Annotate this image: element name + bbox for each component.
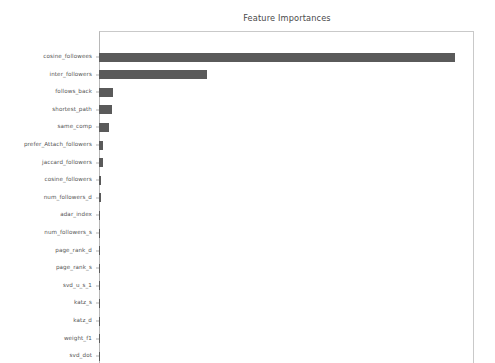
y-axis-tick-label: follows_back — [55, 89, 92, 95]
y-axis-tick-mark — [96, 162, 99, 163]
bar — [99, 193, 101, 202]
y-axis-tick-label: same_comp — [58, 125, 92, 131]
y-axis-tick-mark — [96, 303, 99, 304]
bar-series-layer — [99, 31, 474, 363]
bar — [99, 264, 100, 273]
y-axis-tick-mark — [96, 145, 99, 146]
bar — [99, 70, 207, 79]
y-axis-tick-mark — [96, 57, 99, 58]
y-axis-tick-label: page_rank_d — [55, 248, 92, 254]
y-axis-tick-mark — [96, 180, 99, 181]
y-axis-tick-label: jaccard_followers — [42, 160, 92, 166]
bar — [99, 229, 100, 238]
y-axis-tick-label: num_followers_s — [44, 230, 92, 236]
bar — [99, 141, 103, 150]
y-axis-tick-label: svd_dot — [70, 353, 92, 359]
y-axis-tick-label: num_followers_d — [44, 195, 92, 201]
y-axis-tick-mark — [96, 197, 99, 198]
bar — [99, 246, 100, 255]
bar — [99, 53, 455, 62]
matplotlib-figure: Feature Importances cosine_followeesinte… — [0, 0, 495, 363]
bar — [99, 88, 113, 97]
y-axis-tick-mark — [96, 233, 99, 234]
y-axis-tick-mark — [96, 127, 99, 128]
bar — [99, 105, 112, 114]
y-axis-tick-label: cosine_followers — [44, 177, 92, 183]
bar — [99, 158, 103, 167]
y-axis-tick-label: prefer_Attach_followers — [24, 142, 92, 148]
y-axis-tick-mark — [96, 321, 99, 322]
y-axis-tick-mark — [96, 285, 99, 286]
bar — [99, 123, 109, 132]
bar — [99, 211, 100, 220]
y-axis-tick-mark — [96, 109, 99, 110]
y-axis-tick-label: cosine_followees — [43, 54, 92, 60]
y-axis-tick-mark — [96, 356, 99, 357]
y-axis-tick-label: inter_followers — [50, 72, 92, 78]
bar — [99, 334, 100, 343]
y-axis-tick-mark — [96, 250, 99, 251]
y-axis-tick-label: svd_u_s_1 — [63, 283, 92, 289]
y-axis-labels-layer: cosine_followeesinter_followersfollows_b… — [0, 31, 99, 363]
bar — [99, 176, 101, 185]
bar — [99, 317, 100, 326]
y-axis-tick-mark — [96, 74, 99, 75]
chart-title: Feature Importances — [99, 13, 475, 23]
y-axis-tick-mark — [96, 92, 99, 93]
y-axis-tick-label: weight_f1 — [64, 336, 92, 342]
y-axis-tick-label: katz_s — [74, 301, 92, 307]
y-axis-tick-mark — [96, 338, 99, 339]
bar — [99, 281, 100, 290]
y-axis-tick-mark — [96, 215, 99, 216]
bar — [99, 352, 100, 361]
y-axis-tick-label: page_rank_s — [56, 265, 92, 271]
y-axis-tick-label: katz_d — [73, 318, 92, 324]
bar — [99, 299, 100, 308]
y-axis-tick-label: adar_index — [60, 213, 92, 219]
y-axis-tick-mark — [96, 268, 99, 269]
y-axis-tick-label: shortest_path — [52, 107, 92, 113]
